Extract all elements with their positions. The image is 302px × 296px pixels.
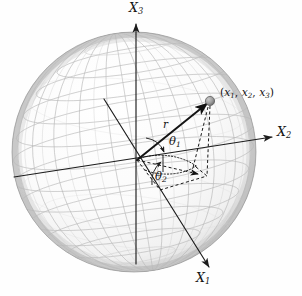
point-coordinates-label: (x1, x2, x3): [220, 88, 274, 99]
axis-x3-label: X3: [129, 2, 143, 15]
axis-x2-label: X2: [277, 126, 291, 139]
theta2-label: θ2: [155, 171, 167, 183]
figure-root: X3 X2 X1 r θ1 θ2 (x1, x2, x3): [0, 0, 302, 296]
radius-label: r: [163, 119, 168, 130]
theta1-label: θ1: [169, 136, 181, 148]
axis-x1-label: X1: [196, 272, 210, 285]
spherical-coordinates-diagram: [0, 0, 302, 296]
point-marker-icon: [205, 96, 214, 105]
